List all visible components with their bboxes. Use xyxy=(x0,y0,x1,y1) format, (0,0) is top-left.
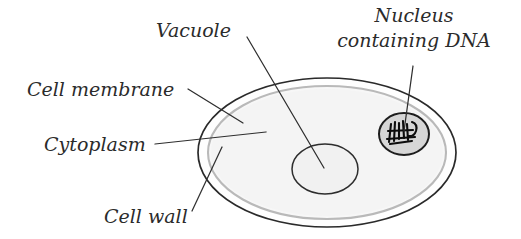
nucleus-group xyxy=(379,113,429,155)
label-cell-membrane: Cell membrane xyxy=(27,78,174,100)
label-nucleus-line2: containing DNA xyxy=(337,29,491,51)
cell-diagram-figure: Vacuole Nucleus containing DNA Cell memb… xyxy=(0,0,521,239)
label-vacuole: Vacuole xyxy=(156,19,231,41)
label-nucleus-line1: Nucleus xyxy=(374,4,454,26)
diagram-canvas: Vacuole Nucleus containing DNA Cell memb… xyxy=(0,0,521,239)
vacuole-shape xyxy=(292,144,358,194)
label-cytoplasm: Cytoplasm xyxy=(44,133,146,155)
label-cell-wall: Cell wall xyxy=(104,205,188,227)
